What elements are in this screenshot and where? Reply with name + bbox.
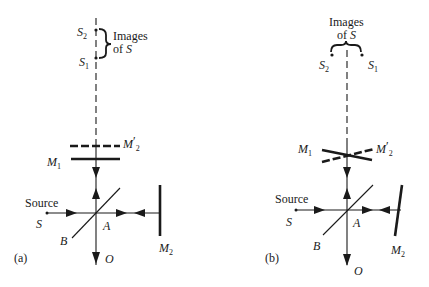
panel-label-b: (b) [265,251,279,265]
arrow-down-from-m1 [92,167,100,178]
arrow-down-from-m1 [343,167,351,178]
panel-b: Images of S S2 S1 M1 M′2 O Source S A B [265,15,405,278]
images-label-line2: of S [337,28,356,42]
arrow-up-to-m1 [92,188,100,199]
b-label: B [60,234,68,248]
images-label-line1: Images [113,29,148,43]
images-label-line2: of S [113,42,132,56]
image-s1-dot [360,53,363,56]
source-label: Source [25,196,58,210]
o-label: O [354,264,363,278]
s1-label: S1 [368,58,378,74]
m2-prime-label: M′2 [122,134,140,153]
arrow-splitter-to-m2 [116,209,127,217]
images-brace [99,29,111,58]
arrow-splitter-to-m2 [362,206,373,214]
s1-label: S1 [79,55,89,71]
s2-label: S2 [319,58,329,74]
panel-label-a: (a) [14,251,27,265]
s-label: S [286,215,292,229]
a-label: A [352,216,361,230]
arrow-up-to-m1 [343,188,351,199]
s2-label: S2 [77,25,87,41]
m1-label: M1 [46,155,61,171]
m2-prime-label: M′2 [375,139,393,158]
m2-label: M2 [158,241,173,257]
images-label-line1: Images [329,15,364,29]
b-label: B [313,239,321,253]
arrow-m2-to-splitter [134,209,145,217]
arrow-down-to-observer [92,252,100,264]
source-label: Source [275,192,308,206]
image-s2-dot [330,53,333,56]
image-s2-dot [94,28,97,31]
arrow-source-to-splitter [66,209,77,217]
o-label: O [105,252,114,266]
michelson-interferometer-figure: S2 S1 Images of S M′2 M1 O Source S A B [0,0,429,287]
images-brace [331,41,361,52]
panel-a: S2 S1 Images of S M′2 M1 O Source S A B [14,18,173,266]
source-point [46,212,49,215]
s-label: S [36,217,42,231]
image-s1-dot [94,56,97,59]
a-label: A [102,219,111,233]
m1-label: M1 [297,142,312,158]
arrow-down-to-observer [343,254,351,266]
arrow-m2-to-splitter [379,206,390,214]
source-point [295,209,298,212]
arrow-source-to-splitter [314,206,325,214]
m2-label: M2 [390,243,405,259]
